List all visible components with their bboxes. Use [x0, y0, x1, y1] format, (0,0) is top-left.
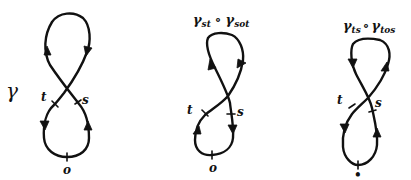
figure-gamma: γ t s o [6, 13, 92, 177]
figure-eight-curve [195, 33, 243, 155]
point-t-label: t [337, 93, 343, 107]
figure-gamma-st-compose-gamma-sot: γst∘γsot t s o [187, 12, 250, 175]
point-s-label: s [237, 105, 244, 119]
arrow-bottom-left-down-icon [40, 121, 49, 130]
arrow-bottom-left-down-icon [340, 124, 349, 133]
point-s-tick [369, 110, 376, 112]
point-t-label: t [187, 103, 193, 117]
compose-operator: ∘ [215, 12, 222, 27]
title-sub-2: sot [234, 19, 250, 29]
point-t-label: t [41, 90, 47, 104]
arrow-bottom-right-up-icon [373, 128, 381, 137]
figure-eight-curve [44, 13, 90, 157]
figure-gamma-label: γ [6, 79, 18, 103]
point-t-tick [349, 104, 355, 108]
point-s-label: s [82, 93, 89, 107]
title-sub-1: ts [352, 25, 361, 35]
compose-operator: ∘ [363, 18, 370, 33]
arrow-top-left-down-icon [348, 59, 357, 68]
figure-gamma-ts-compose-gamma-tos: γts∘γtos t s • [337, 18, 395, 180]
arrow-bottom-right-up-icon [84, 121, 92, 130]
origin-label: • [354, 168, 362, 180]
origin-label: o [63, 163, 71, 177]
title-sub-2: tos [380, 25, 395, 35]
arrow-bottom-right-down-icon [228, 125, 237, 134]
figure-title: γts∘γtos [343, 18, 395, 35]
loop-diagrams: γ t s o γst∘γsot t s o γts∘γtos [0, 0, 411, 180]
figure-title: γst∘γsot [193, 12, 250, 29]
origin-label: o [209, 161, 217, 175]
figure-eight-curve [343, 39, 390, 165]
point-s-label: s [375, 96, 382, 110]
title-sub-1: st [202, 19, 212, 29]
